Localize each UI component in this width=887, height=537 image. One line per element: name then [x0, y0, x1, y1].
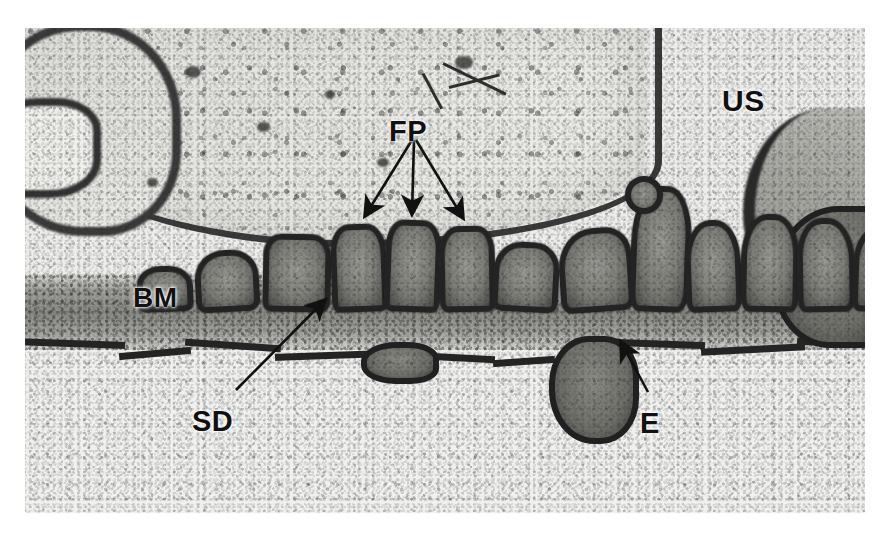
foot-process	[683, 219, 742, 313]
foot-process	[556, 226, 636, 315]
endothelial-cell-body-1	[361, 342, 439, 384]
foot-process	[491, 240, 561, 313]
foot-process	[383, 219, 442, 313]
foot-process	[438, 226, 495, 313]
foot-process	[193, 248, 260, 313]
capillary-lumen-region	[25, 350, 865, 513]
podocyte-inclusion-4	[377, 158, 389, 167]
label-e: E	[640, 409, 660, 438]
label-fp: FP	[389, 117, 427, 146]
podocyte-inclusion-3	[325, 90, 335, 99]
upper-left-capillary-loop-inner	[25, 98, 101, 198]
foot-process	[740, 214, 800, 313]
foot-process	[262, 233, 331, 312]
podocyte-inclusion-6	[147, 178, 158, 187]
foot-process	[625, 176, 663, 214]
podocyte-inclusion-2	[257, 122, 270, 132]
podocyte-inclusion-5	[455, 56, 473, 69]
podocyte-inclusion-1	[185, 66, 201, 78]
foot-process	[796, 218, 856, 313]
endothelial-cell-body-2	[549, 336, 639, 444]
foot-process	[329, 223, 388, 313]
electron-micrograph-figure: USFPBMSDE	[0, 0, 887, 537]
label-bm: BM	[133, 284, 178, 312]
label-us: US	[722, 86, 765, 116]
label-sd: SD	[192, 407, 233, 436]
